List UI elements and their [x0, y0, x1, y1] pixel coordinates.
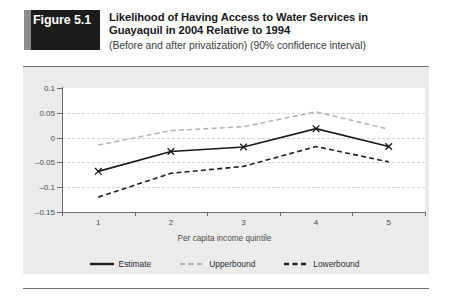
y-tick-label: 0 — [51, 133, 55, 142]
x-tick-mark — [62, 212, 63, 216]
legend-swatch-estimate — [90, 260, 114, 268]
legend-swatch-upperbound — [180, 260, 204, 268]
footer-rule — [23, 288, 429, 289]
y-tick-mark — [57, 187, 62, 188]
series-line-lowerbound — [98, 147, 388, 198]
series-line-estimate — [98, 129, 388, 172]
x-tick-mark — [280, 212, 281, 216]
y-tick-label: 0.1 — [44, 84, 55, 93]
figure-title-line-2: Guayaquil in 2004 Relative to 1994 — [109, 24, 428, 37]
y-tick-mark — [57, 162, 62, 163]
y-tick-label: 0.05 — [39, 108, 55, 117]
x-tick-mark — [352, 212, 353, 216]
x-tick-label: 4 — [314, 218, 318, 227]
y-axis-line — [62, 87, 63, 213]
legend-item-upperbound: Upperbound — [180, 259, 255, 269]
legend-swatch-lowerbound — [284, 260, 308, 268]
y-tick-label: –0.15 — [35, 208, 55, 217]
series-line-upperbound — [98, 112, 388, 145]
figure-subtitle: (Before and after privatization) (90% co… — [109, 38, 428, 52]
x-tick-label: 3 — [241, 218, 245, 227]
series-layer — [62, 88, 425, 212]
x-tick-mark — [425, 212, 426, 216]
x-axis-title: Per capita income quintile — [0, 234, 449, 243]
legend-label-estimate: Estimate — [119, 259, 152, 269]
y-tick-label: –0.1 — [39, 183, 55, 192]
x-tick-label: 1 — [96, 218, 100, 227]
y-tick-mark — [57, 138, 62, 139]
x-tick-mark — [207, 212, 208, 216]
figure-title-block: Likelihood of Having Access to Water Ser… — [100, 10, 428, 52]
y-axis-ticks: 0.10.050–0.05–0.1–0.15 — [0, 0, 55, 301]
y-tick-mark — [57, 113, 62, 114]
x-tick-label: 5 — [386, 218, 390, 227]
y-tick-label: –0.05 — [35, 158, 55, 167]
x-tick-mark — [135, 212, 136, 216]
chart-legend: Estimate Upperbound Lowerbound — [0, 259, 449, 269]
y-tick-mark — [57, 212, 62, 213]
x-tick-label: 2 — [169, 218, 173, 227]
figure-title-line-1: Likelihood of Having Access to Water Ser… — [109, 11, 428, 24]
y-tick-mark — [57, 88, 62, 89]
legend-item-lowerbound: Lowerbound — [284, 259, 359, 269]
figure-number-label: Figure 5.1 — [33, 13, 91, 27]
plot-area — [62, 88, 425, 212]
figure-header: Figure 5.1 Likelihood of Having Access t… — [24, 10, 428, 52]
legend-label-lowerbound: Lowerbound — [313, 259, 359, 269]
x-axis-line — [62, 212, 426, 213]
legend-label-upperbound: Upperbound — [209, 259, 255, 269]
legend-item-estimate: Estimate — [90, 259, 152, 269]
